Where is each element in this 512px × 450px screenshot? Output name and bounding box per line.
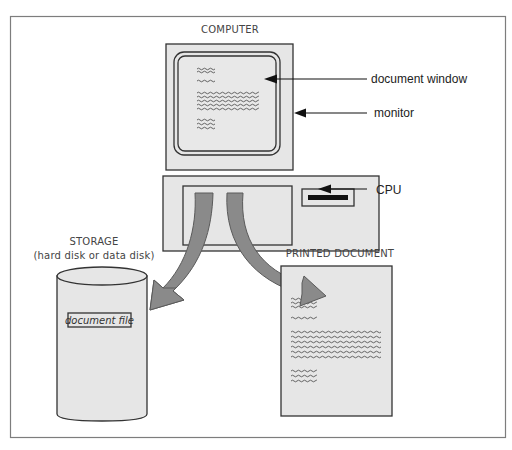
document-file-box: document file	[65, 313, 134, 327]
disk-drive-opening	[308, 195, 348, 200]
storage-cylinder	[57, 267, 147, 421]
storage-subtitle: (hard disk or data disk)	[33, 250, 154, 261]
diagram-canvas: COMPUTER document window monitor	[0, 0, 512, 450]
storage-title: STORAGE	[69, 236, 118, 247]
printed-title: PRINTED DOCUMENT	[286, 248, 395, 259]
monitor	[166, 44, 293, 170]
document-window-label: document window	[371, 72, 467, 86]
cpu-label: CPU	[376, 183, 401, 197]
monitor-label: monitor	[374, 106, 414, 120]
document-window	[178, 56, 276, 151]
printed-page	[281, 266, 392, 416]
computer-title: COMPUTER	[201, 24, 259, 35]
document-file-label: document file	[65, 315, 134, 326]
